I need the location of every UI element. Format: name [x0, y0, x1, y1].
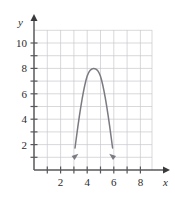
x-tick-label-4: 4	[84, 176, 90, 188]
x-tick-label-8: 8	[138, 176, 144, 188]
x-tick-label-2: 2	[58, 176, 64, 188]
y-tick-label-6: 6	[22, 88, 28, 100]
y-tick-label-2: 2	[22, 139, 28, 151]
y-axis-label: y	[17, 16, 23, 28]
parabola-plot: 10 8 6 4 2 2 4 6 8 y x	[0, 0, 175, 201]
graph-figure: 10 8 6 4 2 2 4 6 8 y x	[0, 0, 175, 201]
x-tick-label-6: 6	[111, 176, 117, 188]
y-tick-label-10: 10	[16, 37, 28, 49]
y-tick-label-8: 8	[22, 62, 28, 74]
x-axis-label: x	[162, 176, 168, 188]
y-tick-label-4: 4	[22, 113, 28, 125]
